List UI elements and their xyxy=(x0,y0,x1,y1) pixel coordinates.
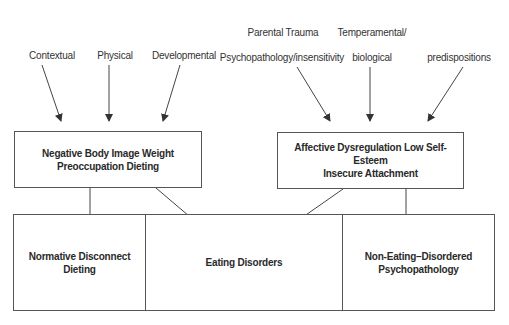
box-normative-text: Normative Disconnect Dieting xyxy=(29,250,131,276)
label-psychopathology-insensitivity: Psychopathology/insensitivity xyxy=(220,52,344,63)
label-predispositions: predispositions xyxy=(427,52,491,63)
box-affective-mediator: Affective Dysregulation Low Self-Esteem … xyxy=(277,132,464,189)
box-non-eating-psychopathology: Non-Eating–Disordered Psychopathology xyxy=(342,214,495,311)
box-eating-disorders-text: Eating Disorders xyxy=(206,256,283,269)
label-temperamental: Temperamental/ xyxy=(338,27,407,38)
box-affective-text: Affective Dysregulation Low Self-Esteem … xyxy=(278,141,463,180)
label-developmental: Developmental xyxy=(152,50,216,61)
label-parental-trauma: Parental Trauma xyxy=(248,27,319,38)
label-physical: Physical xyxy=(97,50,133,61)
box-eating-disorders: Eating Disorders xyxy=(145,214,343,311)
box-normative-dieting: Normative Disconnect Dieting xyxy=(13,214,146,311)
box-body-image-text: Negative Body Image Weight Preoccupation… xyxy=(42,147,174,173)
label-contextual: Contextual xyxy=(29,50,75,61)
box-non-eating-text: Non-Eating–Disordered Psychopathology xyxy=(365,250,472,276)
label-biological: biological xyxy=(352,52,392,63)
box-body-image-mediator: Negative Body Image Weight Preoccupation… xyxy=(14,131,202,188)
